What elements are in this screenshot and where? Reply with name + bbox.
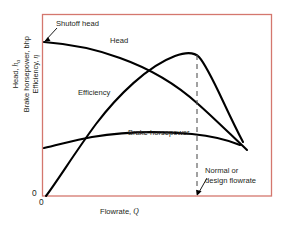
y-axis-label-head-subscript: a	[15, 60, 21, 63]
annotation-efficiency: Efficiency	[78, 88, 110, 97]
annotation-normal-design-flowrate-line2: design flowrate	[205, 176, 279, 186]
plot-canvas	[0, 0, 285, 227]
y-axis-label-efficiency-symbol: η	[31, 55, 40, 59]
annotation-shutoff-head: Shutoff head	[56, 19, 99, 28]
annotation-normal-design-flowrate: Normal or design flowrate	[205, 166, 279, 185]
annotation-normal-design-flowrate-line1: Normal or	[205, 166, 279, 176]
x-axis-label-symbol: Q	[133, 207, 138, 216]
y-axis-label: Head, ha Brake horsepower, bhp Efficienc…	[12, 4, 40, 144]
x-axis-label: Flowrate, Q	[100, 207, 139, 216]
y-axis-origin-tick: 0	[32, 188, 37, 198]
y-axis-label-head-text: Head,	[11, 66, 20, 88]
x-axis-origin-tick: 0	[39, 197, 44, 207]
y-axis-label-line-efficiency: Efficiency, η	[32, 4, 41, 144]
y-axis-label-efficiency-text: Efficiency,	[31, 58, 40, 93]
annotation-head: Head	[110, 36, 128, 45]
annotation-brake-horsepower: Brake horsepower	[128, 128, 190, 137]
x-axis-label-text: Flowrate,	[100, 207, 133, 216]
y-axis-label-head-symbol: h	[11, 63, 20, 67]
pump-performance-figure: Head, ha Brake horsepower, bhp Efficienc…	[0, 0, 285, 227]
shutoff-head-arrowhead	[45, 37, 51, 42]
